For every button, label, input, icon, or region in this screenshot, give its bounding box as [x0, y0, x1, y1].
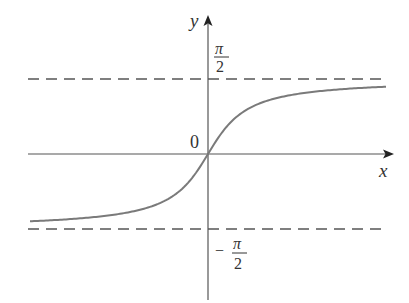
svg-text:π: π: [215, 40, 224, 57]
svg-text:π: π: [233, 235, 242, 252]
lower-asymptote-label: − π 2: [215, 235, 247, 272]
x-axis-label: x: [378, 160, 388, 181]
origin-label: 0: [190, 132, 199, 152]
y-axis-label: y: [188, 10, 199, 31]
svg-text:−: −: [215, 242, 224, 259]
upper-asymptote-label: π 2: [214, 40, 229, 75]
svg-text:2: 2: [216, 58, 224, 75]
arctan-chart: y x 0 π 2 − π 2: [0, 0, 409, 303]
svg-text:2: 2: [234, 255, 242, 272]
